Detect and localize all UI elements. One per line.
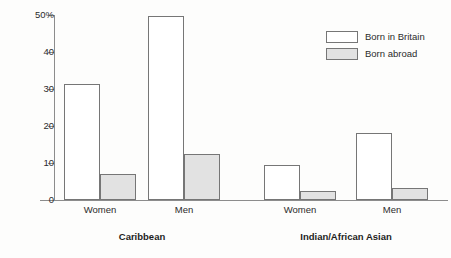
bar-indian-african-asian-women-born-in-britain — [264, 165, 300, 200]
x-axis-line — [40, 200, 448, 201]
bar-indian-african-asian-men-born-in-britain — [356, 133, 392, 200]
chart-legend: Born in Britain Born abroad — [326, 29, 425, 63]
legend-item-born-abroad: Born abroad — [326, 46, 425, 61]
legend-label-born-in-britain: Born in Britain — [365, 31, 425, 42]
x-label-indian-african-asian-men: Men — [352, 204, 432, 216]
legend-item-born-in-britain: Born in Britain — [326, 29, 425, 44]
y-tick-label-30: 30 — [10, 84, 54, 93]
bar-caribbean-men-born-abroad — [184, 154, 220, 200]
y-tick-label-10: 10 — [10, 158, 54, 167]
legend-swatch-icon-born-in-britain — [326, 31, 358, 43]
y-axis-line — [54, 15, 55, 201]
x-label-caribbean-women: Women — [60, 204, 140, 216]
bar-indian-african-asian-men-born-abroad — [392, 188, 428, 200]
y-tick-label-20: 20 — [10, 121, 54, 130]
legend-label-born-abroad: Born abroad — [365, 48, 417, 59]
bar-caribbean-women-born-abroad — [100, 174, 136, 200]
x-label-caribbean-men: Men — [144, 204, 224, 216]
y-tick-label-40: 40 — [10, 47, 54, 56]
plot-area: 50% 40 30 20 10 0 — [0, 0, 451, 258]
legend-swatch-icon-born-abroad — [326, 48, 358, 60]
bar-caribbean-men-born-in-britain — [148, 16, 184, 200]
chart-figure: 50% 40 30 20 10 0 — [0, 0, 451, 258]
bar-indian-african-asian-women-born-abroad — [300, 191, 336, 200]
y-tick-label-0: 0 — [10, 195, 54, 204]
group-label-indian-african-asian: Indian/African Asian — [256, 231, 436, 243]
y-tick-label-50: 50% — [10, 10, 54, 19]
group-label-caribbean: Caribbean — [62, 231, 222, 243]
x-label-indian-african-asian-women: Women — [260, 204, 340, 216]
bar-caribbean-women-born-in-britain — [64, 84, 100, 200]
